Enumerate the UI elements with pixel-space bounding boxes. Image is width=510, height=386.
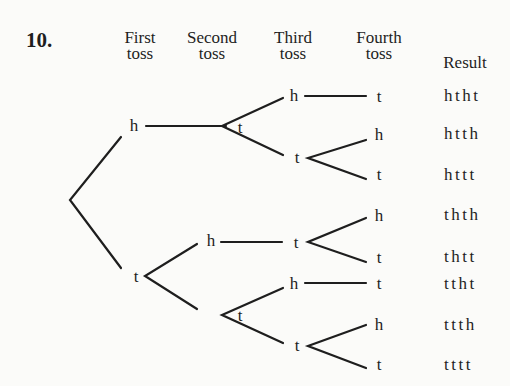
edge-tht-fork bbox=[308, 218, 366, 262]
node-first-h: h bbox=[130, 117, 139, 134]
node-fourth-1: t bbox=[377, 88, 382, 105]
result-2: htth bbox=[444, 124, 480, 144]
node-fourth-8: t bbox=[377, 356, 382, 373]
node-third-ttt: t bbox=[295, 337, 300, 354]
node-fourth-5: t bbox=[377, 249, 382, 266]
result-5: thtt bbox=[444, 247, 477, 267]
node-fourth-7: h bbox=[375, 316, 384, 333]
result-4: thth bbox=[444, 205, 480, 225]
node-fourth-2: h bbox=[375, 126, 384, 143]
node-fourth-3: t bbox=[377, 166, 382, 183]
edge-htt-fork bbox=[308, 140, 366, 179]
node-second-t-t: t bbox=[238, 307, 243, 324]
node-third-htt: t bbox=[295, 149, 300, 166]
node-second-h-t: h bbox=[207, 232, 216, 249]
result-3: httt bbox=[444, 165, 477, 185]
result-6: ttht bbox=[444, 274, 477, 294]
node-third-hth: h bbox=[290, 87, 299, 104]
node-fourth-6: t bbox=[377, 275, 382, 292]
edge-tt-fork bbox=[222, 288, 283, 343]
result-1: htht bbox=[444, 86, 480, 106]
edge-t-fork-first bbox=[145, 244, 197, 309]
edge-root bbox=[70, 137, 121, 268]
node-third-tht: t bbox=[294, 234, 299, 251]
result-7: ttth bbox=[444, 315, 477, 335]
result-8: tttt bbox=[444, 355, 473, 375]
edge-ttt-fork bbox=[308, 325, 366, 368]
node-fourth-4: h bbox=[375, 207, 384, 224]
node-first-t: t bbox=[134, 268, 139, 285]
tree-edges bbox=[0, 0, 510, 386]
node-third-tth: h bbox=[290, 275, 299, 292]
node-second-t-h: t bbox=[238, 119, 243, 136]
edge-t-fork bbox=[222, 98, 283, 155]
